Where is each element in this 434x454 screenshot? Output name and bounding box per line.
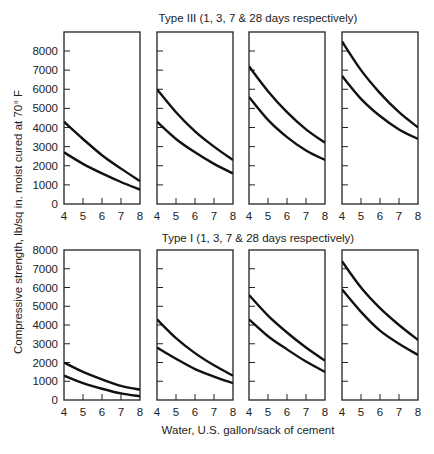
panel-frame — [249, 250, 325, 400]
y-tick-label: 2000 — [32, 357, 58, 369]
x-tick-label: 8 — [415, 406, 421, 418]
x-tick-label: 6 — [377, 406, 383, 418]
curve-lower — [249, 97, 325, 160]
x-tick-label: 5 — [265, 406, 271, 418]
x-tick-label: 8 — [230, 406, 236, 418]
x-tick-label: 4 — [154, 406, 161, 418]
y-tick-label: 0 — [52, 198, 58, 210]
curve-lower — [249, 319, 325, 372]
x-tick-label: 4 — [246, 210, 253, 222]
curve-lower — [157, 122, 233, 174]
compressive-strength-chart: Type III (1, 3, 7 & 28 days respectively… — [0, 0, 434, 454]
curve-upper — [157, 319, 233, 375]
y-tick-label: 4000 — [32, 319, 58, 331]
panel-frame — [64, 250, 140, 400]
panel-frame — [342, 250, 418, 400]
x-tick-label: 5 — [173, 406, 179, 418]
x-tick-label: 8 — [230, 210, 236, 222]
x-tick-label: 6 — [284, 210, 290, 222]
x-tick-label: 4 — [61, 406, 68, 418]
panel-type-i-28-days: 45678 — [339, 250, 421, 418]
panels-group: 0100020003000400050006000700080004567845… — [32, 32, 421, 418]
panel-frame — [64, 32, 140, 204]
x-tick-label: 7 — [396, 406, 402, 418]
y-tick-label: 1000 — [32, 179, 58, 191]
x-tick-label: 7 — [211, 210, 217, 222]
panel-type-iii-1-day: 45678 — [61, 32, 143, 222]
panel-frame — [157, 32, 233, 204]
y-tick-label: 5000 — [32, 300, 58, 312]
y-tick-label: 0 — [52, 394, 58, 406]
curve-lower — [64, 152, 140, 189]
y-tick-label: 2000 — [32, 160, 58, 172]
y-tick-label: 7000 — [32, 263, 58, 275]
y-tick-label: 3000 — [32, 338, 58, 350]
x-tick-label: 5 — [265, 210, 271, 222]
x-tick-label: 8 — [137, 406, 143, 418]
panel-type-iii-28-days: 45678 — [339, 32, 421, 222]
y-tick-label: 4000 — [32, 122, 58, 134]
x-tick-label: 8 — [415, 210, 421, 222]
x-tick-label: 6 — [192, 406, 198, 418]
panel-type-i-1-day: 45678 — [61, 250, 143, 418]
x-tick-label: 6 — [377, 210, 383, 222]
y-tick-label: 1000 — [32, 375, 58, 387]
panel-type-iii-3-days: 45678 — [154, 32, 236, 222]
curve-upper — [249, 66, 325, 143]
y-tick-label: 5000 — [32, 102, 58, 114]
y-tick-label: 8000 — [32, 244, 58, 256]
type-i-row-title: Type I (1, 3, 7 & 28 days respectively) — [162, 232, 355, 244]
x-tick-label: 8 — [322, 210, 328, 222]
x-tick-label: 5 — [358, 210, 364, 222]
x-tick-label: 5 — [80, 406, 86, 418]
x-tick-label: 7 — [303, 406, 309, 418]
y-tick-label: 7000 — [32, 64, 58, 76]
y-tick-label: 6000 — [32, 83, 58, 95]
y-axis-title: Compressive strength, lb/sq in. moist cu… — [12, 90, 24, 354]
x-tick-label: 5 — [80, 210, 86, 222]
curve-upper — [157, 89, 233, 160]
x-tick-label: 8 — [322, 406, 328, 418]
x-tick-label: 6 — [192, 210, 198, 222]
x-tick-label: 5 — [173, 210, 179, 222]
panel-type-i-3-days: 45678 — [154, 250, 236, 418]
panel-frame — [249, 32, 325, 204]
x-tick-label: 8 — [137, 210, 143, 222]
curve-upper — [64, 363, 140, 390]
y-tick-label: 6000 — [32, 282, 58, 294]
x-tick-label: 6 — [284, 406, 290, 418]
x-axis-title: Water, U.S. gallon/sack of cement — [162, 424, 336, 436]
x-tick-label: 7 — [211, 406, 217, 418]
curve-upper — [342, 261, 418, 340]
curve-lower — [342, 289, 418, 355]
panel-frame — [157, 250, 233, 400]
x-tick-label: 6 — [99, 210, 105, 222]
x-tick-label: 5 — [358, 406, 364, 418]
y-tick-label: 8000 — [32, 45, 58, 57]
x-tick-label: 7 — [396, 210, 402, 222]
x-tick-label: 4 — [154, 210, 161, 222]
y-tick-label: 3000 — [32, 141, 58, 153]
x-tick-label: 7 — [118, 406, 124, 418]
x-tick-label: 4 — [339, 406, 346, 418]
x-tick-label: 7 — [118, 210, 124, 222]
x-tick-label: 4 — [61, 210, 68, 222]
x-tick-label: 6 — [99, 406, 105, 418]
type-iii-row-title: Type III (1, 3, 7 & 28 days respectively… — [159, 12, 358, 24]
x-tick-label: 7 — [303, 210, 309, 222]
x-tick-label: 4 — [339, 210, 346, 222]
panel-type-i-7-days: 45678 — [246, 250, 328, 418]
panel-type-iii-7-days: 45678 — [246, 32, 328, 222]
curve-lower — [342, 76, 418, 139]
x-tick-label: 4 — [246, 406, 253, 418]
